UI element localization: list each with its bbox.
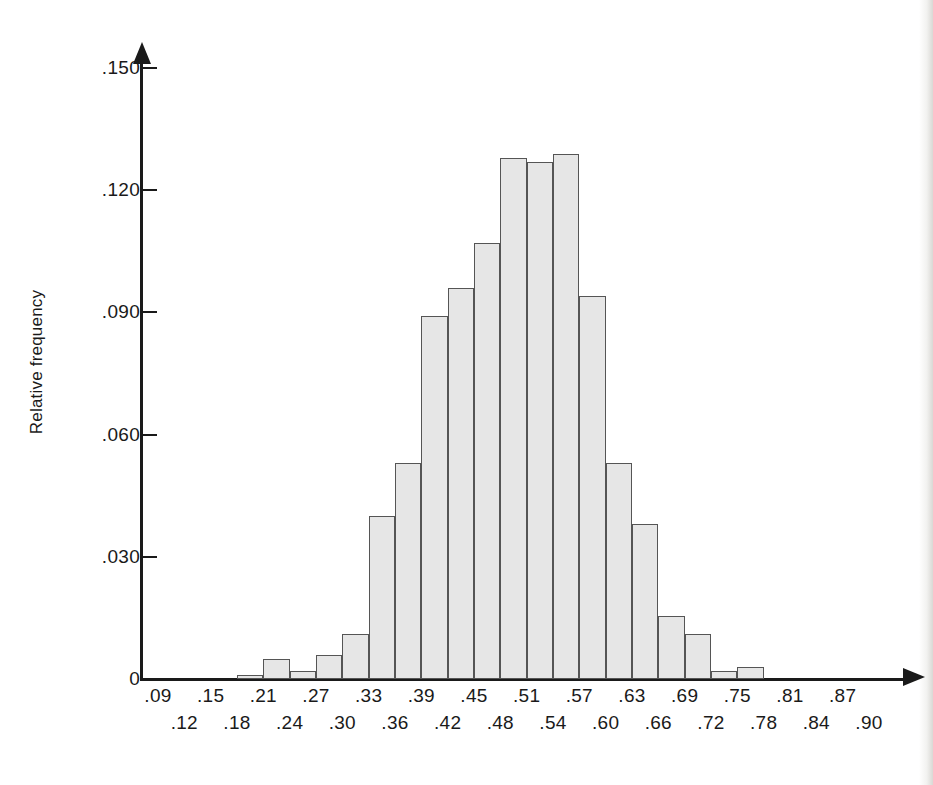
histogram-chart: Relative frequency 0.030.060.090.120.150… — [0, 0, 933, 785]
x-axis-tick-label: .87 — [816, 686, 870, 705]
histogram-bar — [632, 524, 658, 679]
x-axis-tick-label: .81 — [763, 686, 817, 705]
x-axis-tick-label: .75 — [710, 686, 764, 705]
x-axis-tick-label: .45 — [447, 686, 501, 705]
histogram-bar — [290, 671, 316, 679]
x-axis-tick-label: .42 — [421, 713, 475, 732]
histogram-bars — [0, 0, 933, 785]
x-axis-tick-label: .12 — [157, 713, 211, 732]
histogram-bar — [342, 634, 368, 679]
histogram-bar — [685, 634, 711, 679]
histogram-bar — [474, 243, 500, 679]
x-axis-tick-label: .33 — [342, 686, 396, 705]
x-axis-tick-label: .21 — [236, 686, 290, 705]
histogram-bar — [369, 516, 395, 679]
histogram-bar — [658, 616, 684, 679]
histogram-bar — [448, 288, 474, 679]
histogram-bar — [316, 655, 342, 679]
histogram-bar — [421, 316, 447, 679]
x-axis-tick-label: .15 — [184, 686, 238, 705]
x-axis-tick-label: .90 — [842, 713, 896, 732]
x-axis-tick-label: .51 — [500, 686, 554, 705]
x-axis-tick-label: .39 — [394, 686, 448, 705]
x-axis-tick-label: .09 — [131, 686, 185, 705]
histogram-bar — [553, 154, 579, 679]
histogram-bar — [395, 463, 421, 679]
x-axis-tick-label: .72 — [684, 713, 738, 732]
x-axis-tick-label: .48 — [473, 713, 527, 732]
x-axis-tick-label: .54 — [526, 713, 580, 732]
x-axis-tick-label: .57 — [552, 686, 606, 705]
histogram-bar — [237, 675, 263, 679]
x-axis-tick-label: .84 — [789, 713, 843, 732]
x-axis-tick-label: .60 — [579, 713, 633, 732]
histogram-bar — [737, 667, 763, 679]
x-axis-tick-label: .27 — [289, 686, 343, 705]
x-axis-tick-label: .63 — [605, 686, 659, 705]
histogram-bar — [606, 463, 632, 679]
x-axis-tick-label: .36 — [368, 713, 422, 732]
x-axis-tick-label: .24 — [263, 713, 317, 732]
x-axis-tick-label: .66 — [631, 713, 685, 732]
histogram-bar — [527, 162, 553, 679]
x-axis-tick-label: .69 — [658, 686, 712, 705]
histogram-bar — [500, 158, 526, 679]
x-axis-tick-label: .78 — [737, 713, 791, 732]
x-axis-tick-label: .30 — [315, 713, 369, 732]
histogram-bar — [579, 296, 605, 679]
x-axis-tick-label: .18 — [210, 713, 264, 732]
histogram-bar — [711, 671, 737, 679]
histogram-bar — [263, 659, 289, 679]
